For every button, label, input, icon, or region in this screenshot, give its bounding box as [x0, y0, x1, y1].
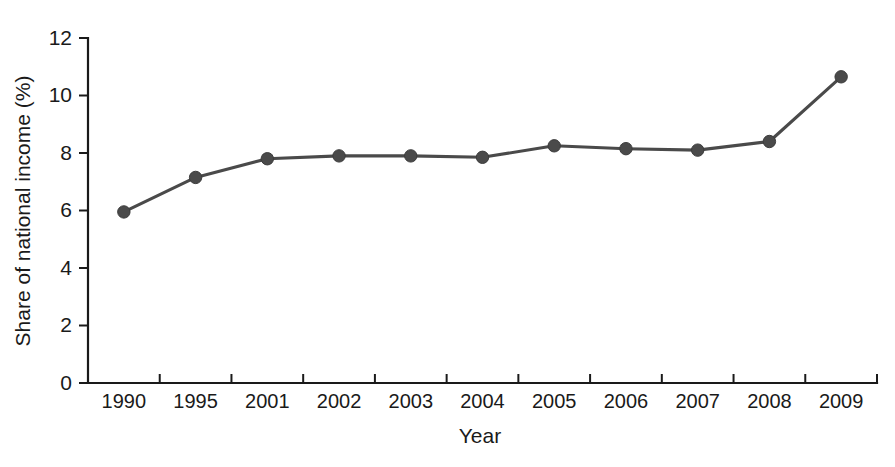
data-point-marker: [548, 140, 560, 152]
data-point-marker: [118, 206, 130, 218]
data-point-marker: [691, 144, 703, 156]
chart-figure: 024681012 199019952001200220032004200520…: [0, 0, 895, 467]
y-axis-tick-label: 4: [60, 256, 72, 279]
x-axis-tick-label: 2009: [819, 390, 864, 412]
data-point-marker: [476, 151, 488, 163]
x-axis: 1990199520012002200320042005200620072008…: [88, 374, 877, 412]
x-axis-tick-label: 2003: [389, 390, 434, 412]
x-axis-tick-label: 1995: [173, 390, 218, 412]
data-point-marker: [620, 142, 632, 154]
data-point-marker: [405, 150, 417, 162]
data-series-line: [124, 77, 841, 212]
x-axis-tick-label: 1990: [102, 390, 147, 412]
series-line-share-of-national-income: [124, 77, 841, 212]
x-axis-title: Year: [459, 424, 501, 447]
x-axis-tick-label: 2005: [532, 390, 577, 412]
x-axis-tick-label: 2006: [604, 390, 649, 412]
data-point-marker: [333, 150, 345, 162]
x-axis-tick-label: 2002: [317, 390, 362, 412]
y-axis-tick-label: 8: [60, 141, 72, 164]
y-axis-tick-label: 2: [60, 313, 72, 336]
y-axis-tick-label: 10: [49, 83, 72, 106]
y-axis-tick-label: 12: [49, 26, 72, 49]
data-point-marker: [261, 153, 273, 165]
y-axis-tick-label: 6: [60, 198, 72, 221]
x-axis-tick-label: 2001: [245, 390, 290, 412]
y-axis: 024681012: [49, 26, 88, 394]
x-axis-tick-label: 2008: [747, 390, 792, 412]
x-axis-tick-label: 2007: [675, 390, 720, 412]
line-chart: 024681012 199019952001200220032004200520…: [0, 0, 895, 467]
data-point-marker: [763, 135, 775, 147]
data-point-marker: [189, 171, 201, 183]
y-axis-title: Share of national income (%): [11, 76, 34, 347]
y-axis-tick-label: 0: [60, 371, 72, 394]
x-axis-tick-label: 2004: [460, 390, 505, 412]
data-point-marker: [835, 71, 847, 83]
